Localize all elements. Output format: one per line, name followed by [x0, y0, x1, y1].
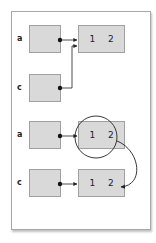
highlight-circle: [75, 116, 117, 158]
pointer-arrow-c: [58, 182, 77, 186]
copy-arrow: [117, 141, 137, 187]
pointer-arrow-a: [58, 38, 77, 42]
pointer-arrow-c: [58, 46, 77, 90]
pointer-arrow-a: [58, 134, 77, 138]
connectors: [0, 0, 156, 243]
